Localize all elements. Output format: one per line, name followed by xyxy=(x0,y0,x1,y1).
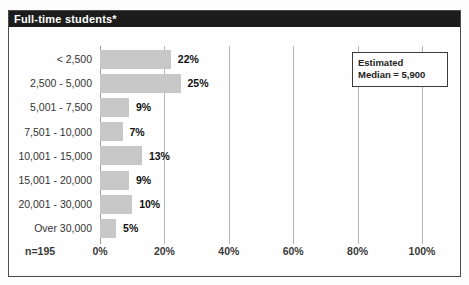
chart-title: Full-time students* xyxy=(14,13,117,25)
bar xyxy=(100,74,181,93)
category-label: 15,001 - 20,000 xyxy=(9,174,92,186)
x-tick-label: 80% xyxy=(347,245,368,257)
value-label: 25% xyxy=(188,77,209,89)
x-axis: 0%20%40%60%80%100% xyxy=(9,245,460,259)
median-annotation-line1: Estimated xyxy=(358,57,442,69)
value-label: 9% xyxy=(136,174,151,186)
bar xyxy=(100,219,116,238)
plot-area: < 2,50022%2,500 - 5,00025%5,001 - 7,5009… xyxy=(9,28,460,276)
median-annotation-line2: Median = 5,900 xyxy=(358,69,442,81)
bar-zone: 10% xyxy=(100,192,460,216)
x-tick-label: 40% xyxy=(218,245,239,257)
bar xyxy=(100,171,129,190)
bar-row: Over 30,0005% xyxy=(9,216,460,240)
median-annotation-box: Estimated Median = 5,900 xyxy=(352,52,448,87)
value-label: 13% xyxy=(149,150,170,162)
bar-row: 15,001 - 20,0009% xyxy=(9,168,460,192)
page-background: { "title": "Full-time students*", "sampl… xyxy=(0,0,469,285)
bar-zone: 9% xyxy=(100,168,460,192)
category-label: < 2,500 xyxy=(9,53,92,65)
bar-zone: 7% xyxy=(100,120,460,144)
bar-zone: 5% xyxy=(100,216,460,240)
chart-frame: Full-time students* < 2,50022%2,500 - 5,… xyxy=(8,10,461,277)
value-label: 5% xyxy=(123,222,138,234)
category-label: 7,501 - 10,000 xyxy=(9,126,92,138)
chart-title-bar: Full-time students* xyxy=(9,11,460,27)
bar-row: 7,501 - 10,0007% xyxy=(9,120,460,144)
bar-row: 5,001 - 7,5009% xyxy=(9,95,460,119)
value-label: 9% xyxy=(136,101,151,113)
bar-zone: 9% xyxy=(100,95,460,119)
value-label: 7% xyxy=(130,126,145,138)
x-tick-label: 60% xyxy=(283,245,304,257)
category-label: 5,001 - 7,500 xyxy=(9,101,92,113)
x-tick-label: 0% xyxy=(92,245,107,257)
bar-row: 20,001 - 30,00010% xyxy=(9,192,460,216)
category-label: 20,001 - 30,000 xyxy=(9,198,92,210)
x-tick-label: 100% xyxy=(409,245,436,257)
value-label: 22% xyxy=(178,53,199,65)
bar xyxy=(100,98,129,117)
value-label: 10% xyxy=(139,198,160,210)
category-label: 2,500 - 5,000 xyxy=(9,77,92,89)
category-label: 10,001 - 15,000 xyxy=(9,150,92,162)
bar xyxy=(100,122,123,141)
bar xyxy=(100,146,142,165)
x-tick-label: 20% xyxy=(154,245,175,257)
bar xyxy=(100,195,132,214)
bar xyxy=(100,50,171,69)
category-label: Over 30,000 xyxy=(9,222,92,234)
bar-row: 10,001 - 15,00013% xyxy=(9,144,460,168)
bar-zone: 13% xyxy=(100,144,460,168)
